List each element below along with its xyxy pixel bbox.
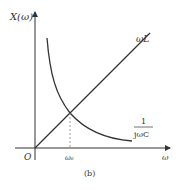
reactance-diagram: X(ω) ω O ω₀ ωL 1 jωC (b)	[0, 0, 179, 190]
capacitive-label-denominator: jωC	[133, 130, 149, 139]
capacitive-reactance-curve	[47, 38, 132, 141]
origin-label: O	[24, 152, 32, 162]
y-axis-label: X(ω)	[9, 11, 33, 22]
x-axis-label: ω	[162, 153, 169, 162]
figure-caption: (b)	[84, 169, 95, 178]
resonance-frequency-label: ω₀	[65, 154, 74, 162]
inductive-reactance-label: ωL	[136, 34, 149, 44]
capacitive-label-numerator: 1	[141, 117, 146, 126]
